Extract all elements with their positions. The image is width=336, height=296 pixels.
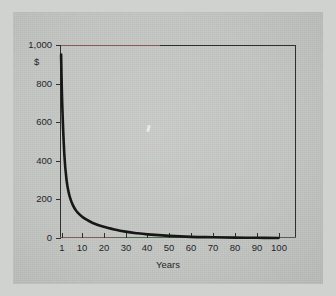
decay-curve	[0, 0, 336, 296]
chart-screenshot: 02004006008001,000 110203040506070809010…	[0, 0, 336, 296]
